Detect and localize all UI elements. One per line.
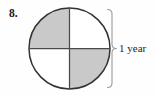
figure-container: 8. 1 year — [0, 0, 156, 95]
bracket-label: 1 year — [119, 41, 146, 55]
